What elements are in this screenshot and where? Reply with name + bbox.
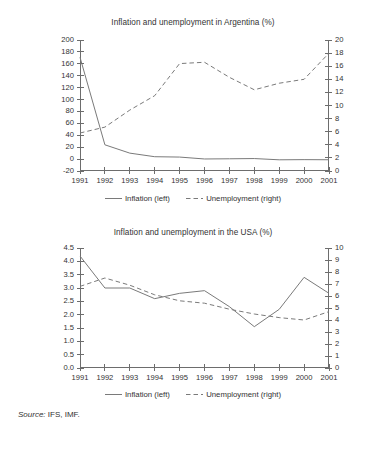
y-tick-left-usa [77,314,84,315]
y-tick-label-right-argentina: 0 [335,167,339,175]
y-tick-left-argentina [77,63,84,64]
y-tick-left-usa [77,301,84,302]
dashed-line-swatch-icon [186,391,203,398]
legend-label-unemployment-argentina: Unemployment (right) [206,194,281,203]
x-tick-usa [104,364,105,371]
y-tick-left-usa [77,328,84,329]
x-tick-label-usa: 2000 [296,374,313,382]
y-tick-label-left-argentina: 80 [66,107,74,115]
solid-line-swatch-icon [105,391,122,398]
y-tick-left-usa [77,368,84,369]
y-tick-label-left-usa: 3.0 [63,284,74,292]
x-tick-label-usa: 1998 [246,374,263,382]
y-tick-label-left-usa: 2.5 [63,297,74,305]
x-tick-argentina [229,167,230,174]
x-tick-argentina [179,167,180,174]
y-tick-label-right-usa: 2 [335,340,339,348]
y-tick-left-argentina [77,87,84,88]
y-tick-right-argentina [325,157,332,158]
y-tick-label-right-argentina: 18 [335,49,343,57]
chart-panel-argentina: Inflation and unemployment in Argentina … [18,18,368,218]
chart-panel-usa: Inflation and unemployment in the USA (%… [18,228,368,403]
y-tick-left-argentina [77,135,84,136]
x-tick-argentina [80,167,81,174]
y-tick-right-argentina [325,79,332,80]
y-tick-label-right-argentina: 16 [335,62,343,70]
x-tick-label-argentina: 1993 [121,177,138,185]
source-label: Source: [18,410,46,419]
y-tick-right-usa [325,320,332,321]
y-tick-label-right-usa: 4 [335,316,339,324]
y-tick-label-right-usa: 9 [335,256,339,264]
series-inflation-usa [80,256,329,327]
y-tick-label-left-argentina: 140 [61,72,74,80]
y-tick-label-left-argentina: 160 [61,60,74,68]
x-tick-argentina [279,167,280,174]
y-tick-label-left-usa: 4.5 [63,244,74,252]
y-tick-label-left-usa: 1.5 [63,324,74,332]
x-tick-usa [204,364,205,371]
y-tick-left-usa [77,261,84,262]
y-tick-label-left-argentina: 60 [66,119,74,127]
y-tick-label-right-usa: 8 [335,268,339,276]
y-tick-right-usa [325,248,332,249]
y-tick-right-usa [325,308,332,309]
y-tick-label-right-argentina: 14 [335,75,343,83]
y-tick-right-argentina [325,40,332,41]
legend-item-inflation-argentina: Inflation (left) [105,194,170,203]
series-lines-argentina [80,40,329,171]
legend-label-inflation-argentina: Inflation (left) [125,194,170,203]
y-tick-right-argentina [325,118,332,119]
x-tick-argentina [154,167,155,174]
y-tick-label-right-argentina: 4 [335,141,339,149]
x-tick-label-usa: 1993 [121,374,138,382]
y-tick-label-left-argentina: 100 [61,96,74,104]
x-tick-label-usa: 1991 [72,374,89,382]
x-tick-label-argentina: 1991 [72,177,89,185]
x-tick-label-argentina: 2001 [321,177,338,185]
y-tick-label-right-usa: 7 [335,280,339,288]
plot-area-usa: 0.00.51.01.52.02.53.03.54.04.50123456789… [80,248,329,368]
x-tick-usa [279,364,280,371]
x-tick-usa [179,364,180,371]
y-tick-left-argentina [77,159,84,160]
x-tick-argentina [254,167,255,174]
x-tick-label-argentina: 1992 [96,177,113,185]
y-tick-left-usa [77,248,84,249]
x-tick-argentina [204,167,205,174]
y-tick-left-usa [77,354,84,355]
x-tick-usa [80,364,81,371]
y-tick-label-left-usa: 1.0 [63,337,74,345]
y-tick-left-argentina [77,99,84,100]
y-tick-label-left-usa: 4.0 [63,257,74,265]
x-tick-label-usa: 1995 [171,374,188,382]
series-inflation-argentina [80,57,329,160]
y-tick-left-argentina [77,123,84,124]
chart-title-usa: Inflation and unemployment in the USA (%… [18,228,368,237]
x-tick-argentina [129,167,130,174]
y-tick-right-argentina [325,144,332,145]
y-tick-label-left-usa: 2.0 [63,311,74,319]
x-tick-argentina [104,167,105,174]
plot-area-argentina: -200204060801001201401601802000246810121… [80,40,329,171]
x-tick-usa [329,364,330,371]
y-tick-label-left-argentina: 180 [61,48,74,56]
y-tick-label-right-argentina: 6 [335,128,339,136]
y-tick-label-right-usa: 6 [335,292,339,300]
y-tick-label-left-usa: 0.5 [63,351,74,359]
chart-title-argentina: Inflation and unemployment in Argentina … [18,18,368,27]
y-tick-left-argentina [77,75,84,76]
x-tick-usa [129,364,130,371]
y-tick-label-right-usa: 10 [335,244,343,252]
y-tick-left-usa [77,274,84,275]
y-tick-label-left-argentina: 0 [70,155,74,163]
x-tick-label-argentina: 2000 [296,177,313,185]
y-tick-right-argentina [325,53,332,54]
y-tick-right-argentina [325,105,332,106]
legend-usa: Inflation (left) Unemployment (right) [18,390,368,399]
figure-container: Inflation and unemployment in Argentina … [18,18,368,432]
x-tick-label-usa: 2001 [321,374,338,382]
y-tick-label-left-argentina: 20 [66,143,74,151]
x-tick-usa [154,364,155,371]
legend-item-inflation-usa: Inflation (left) [105,390,170,399]
